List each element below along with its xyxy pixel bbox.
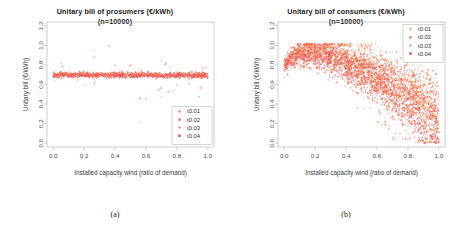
svg-text:0.8: 0.8 <box>268 60 275 69</box>
svg-text:0.0: 0.0 <box>268 138 275 147</box>
svg-text:t0.04: t0.04 <box>418 51 432 57</box>
svg-text:0.2: 0.2 <box>80 152 89 159</box>
panel-a-plot-area: 0.00.20.40.60.81.00.00.20.40.60.81.01.2I… <box>0 0 230 225</box>
panel-a-caption: (a) <box>0 210 230 219</box>
svg-text:0.6: 0.6 <box>373 152 382 159</box>
svg-text:0.4: 0.4 <box>37 99 44 108</box>
svg-text:0.4: 0.4 <box>342 152 351 159</box>
svg-text:0.8: 0.8 <box>37 60 44 69</box>
svg-text:t0.02: t0.02 <box>187 117 200 123</box>
panel-b-plot-area: 0.00.20.40.60.81.00.00.20.40.60.81.01.2I… <box>231 0 461 225</box>
svg-text:0.0: 0.0 <box>37 138 44 147</box>
svg-text:t0.04: t0.04 <box>187 133 201 139</box>
svg-text:0.8: 0.8 <box>173 152 182 159</box>
svg-text:t0.03: t0.03 <box>187 125 201 131</box>
svg-text:0.6: 0.6 <box>37 80 44 89</box>
svg-text:1.0: 1.0 <box>435 152 444 159</box>
panel-b-svg: 0.00.20.40.60.81.00.00.20.40.60.81.01.2I… <box>231 0 461 200</box>
svg-text:t0.02: t0.02 <box>418 34 431 40</box>
svg-text:1.0: 1.0 <box>204 152 213 159</box>
svg-text:Installed capacity wind (ratio: Installed capacity wind (ratio of demand… <box>305 169 418 177</box>
panel-a: Unitary bill of prosumers (€/kWh) (n=100… <box>0 0 230 225</box>
svg-text:0.2: 0.2 <box>268 119 275 128</box>
figure-two-panel-scatter: Unitary bill of prosumers (€/kWh) (n=100… <box>0 0 461 225</box>
svg-text:0.6: 0.6 <box>268 80 275 89</box>
svg-text:Unitary bill (€/kWh): Unitary bill (€/kWh) <box>22 58 30 111</box>
svg-text:0.2: 0.2 <box>311 152 320 159</box>
svg-text:0.2: 0.2 <box>37 119 44 128</box>
svg-text:t0.03: t0.03 <box>418 43 432 49</box>
svg-text:t0.01: t0.01 <box>187 108 200 114</box>
svg-text:1.0: 1.0 <box>37 41 44 50</box>
panel-b: Unitary bill of consumers (€/kWh) (n=100… <box>231 0 461 225</box>
svg-text:0.6: 0.6 <box>142 152 151 159</box>
svg-text:Unitary bill (€/kWh): Unitary bill (€/kWh) <box>253 58 261 111</box>
svg-text:t0.01: t0.01 <box>418 26 431 32</box>
svg-text:Installed capacity wind (ratio: Installed capacity wind (ratio of demand… <box>74 169 187 177</box>
svg-text:0.4: 0.4 <box>111 152 120 159</box>
panel-b-caption: (b) <box>231 210 461 219</box>
svg-text:0.8: 0.8 <box>404 152 413 159</box>
svg-text:0.0: 0.0 <box>49 152 58 159</box>
panel-a-svg: 0.00.20.40.60.81.00.00.20.40.60.81.01.2I… <box>0 0 230 200</box>
svg-text:0.4: 0.4 <box>268 99 275 108</box>
svg-text:1.0: 1.0 <box>268 41 275 50</box>
svg-text:1.2: 1.2 <box>37 21 44 30</box>
svg-text:1.2: 1.2 <box>268 21 275 30</box>
svg-text:0.0: 0.0 <box>280 152 289 159</box>
